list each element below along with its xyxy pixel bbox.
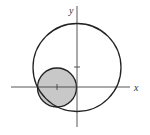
diagram-canvas: y x [0,0,150,135]
y-axis-label: y [68,5,74,16]
x-axis-label: x [133,82,139,93]
